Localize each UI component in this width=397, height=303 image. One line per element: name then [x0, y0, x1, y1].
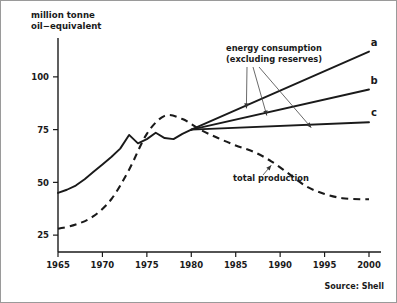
- x-tick-label: 1970: [91, 260, 115, 270]
- series-total-production: [58, 115, 369, 229]
- energy-consumption-label-line2: (excluding reserves): [226, 54, 322, 64]
- series-energy-consumption-historical: [58, 130, 191, 193]
- data-series-group: [58, 52, 369, 229]
- x-tick-label: 1965: [46, 260, 70, 270]
- x-tick-label: 1995: [313, 260, 337, 270]
- y-tick-label: 75: [37, 125, 49, 135]
- total-production-label: total production: [233, 173, 309, 183]
- y-axis-ticks: 255075100: [31, 72, 58, 240]
- axis-title-group: million tonne oil−equivalent: [31, 10, 101, 31]
- chart-figure: 255075100 196519701975198019851990199520…: [0, 0, 397, 303]
- x-axis-ticks: 19651970197519801985199019952000: [46, 252, 381, 270]
- arrow-to-a-shaft: [246, 67, 247, 108]
- x-tick-label: 2000: [357, 260, 381, 270]
- axes-group: 255075100 196519701975198019851990199520…: [31, 38, 381, 270]
- x-tick-label: 1975: [135, 260, 159, 270]
- series-end-label: c: [371, 107, 377, 118]
- x-tick-label: 1985: [224, 260, 248, 270]
- arrow-to-b-shaft: [253, 67, 267, 116]
- y-axis-title-line1: million tonne: [31, 10, 95, 20]
- series-end-label: a: [371, 37, 378, 48]
- x-tick-label: 1980: [179, 260, 203, 270]
- chart-svg: 255075100 196519701975198019851990199520…: [1, 1, 396, 302]
- annotation-energy-consumption: energy consumption (excluding reserves): [226, 43, 322, 128]
- y-tick-label: 100: [31, 72, 49, 82]
- y-tick-label: 25: [37, 230, 49, 240]
- y-axis-title-line2: oil−equivalent: [31, 21, 101, 31]
- annotation-total-production: total production: [233, 165, 309, 183]
- series-label-group: abc: [370, 37, 377, 119]
- y-tick-label: 50: [37, 178, 49, 188]
- x-tick-label: 1990: [268, 260, 292, 270]
- series-end-label: b: [370, 75, 377, 86]
- energy-consumption-label-line1: energy consumption: [226, 43, 322, 53]
- energy-consumption-arrows: [244, 67, 311, 128]
- source-note: Source: Shell: [325, 282, 385, 291]
